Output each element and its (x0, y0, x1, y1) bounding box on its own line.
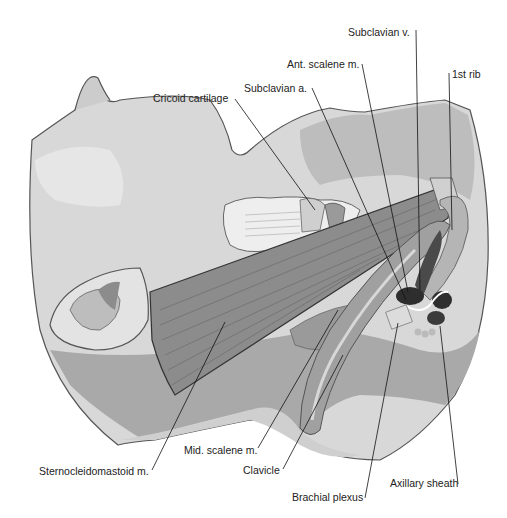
label-subclavian-vein: Subclavian v. (348, 26, 410, 38)
anatomy-illustration (0, 0, 507, 518)
label-anterior-scalene: Ant. scalene m. (287, 58, 359, 70)
label-subclavian-artery: Subclavian a. (244, 82, 307, 94)
label-middle-scalene: Mid. scalene m. (184, 444, 258, 456)
label-clavicle: Clavicle (243, 464, 280, 476)
label-cricoid-cartilage: Cricoid cartilage (153, 92, 228, 104)
label-axillary-sheath: Axillary sheath (390, 477, 458, 489)
label-sternocleidomastoid: Sternocleidomastoid m. (39, 465, 149, 477)
label-brachial-plexus: Brachial plexus (292, 491, 363, 503)
label-first-rib: 1st rib (452, 68, 481, 80)
